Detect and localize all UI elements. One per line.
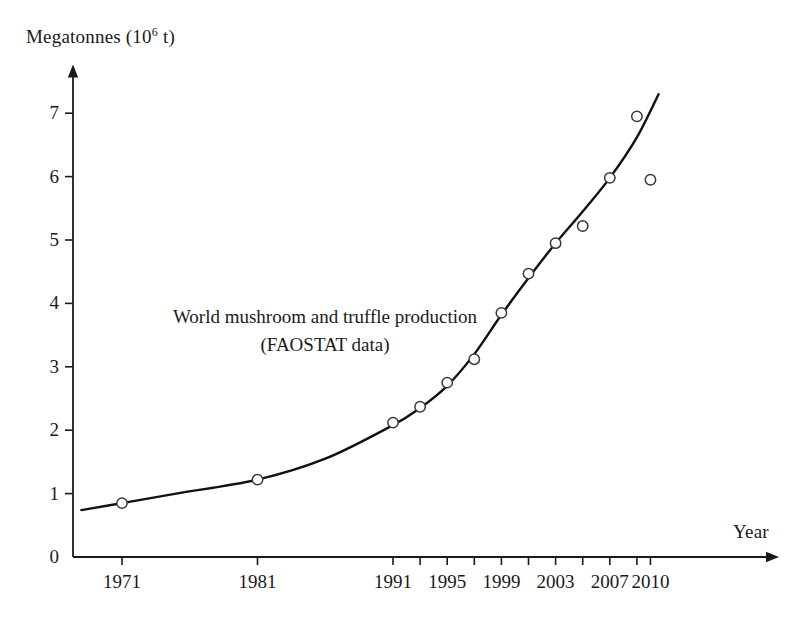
y-tick-label: 0 <box>31 546 59 568</box>
data-point-marker <box>523 268 533 278</box>
data-point-marker <box>605 173 615 183</box>
data-point-marker <box>252 474 262 484</box>
x-tick-label: 2007 <box>591 571 629 593</box>
data-point-marker <box>469 354 479 364</box>
data-point-marker <box>117 498 127 508</box>
data-markers <box>117 111 656 508</box>
y-tick-label: 2 <box>31 419 59 441</box>
x-tick-label: 1971 <box>103 571 141 593</box>
x-tick-label: 1999 <box>482 571 520 593</box>
y-tick-label: 5 <box>31 229 59 251</box>
plot-area <box>0 0 805 623</box>
axes-group <box>68 65 779 563</box>
data-point-marker <box>578 221 588 231</box>
data-point-marker <box>496 308 506 318</box>
x-tick-label: 2003 <box>537 571 575 593</box>
y-tick-label: 3 <box>31 356 59 378</box>
x-tick-label: 1981 <box>239 571 277 593</box>
y-tick-label: 7 <box>31 102 59 124</box>
y-tick-label: 1 <box>31 483 59 505</box>
y-tick-label: 4 <box>31 292 59 314</box>
data-point-marker <box>645 175 655 185</box>
x-tick-label: 2010 <box>631 571 669 593</box>
x-tick-label: 1995 <box>428 571 466 593</box>
data-point-marker <box>632 111 642 121</box>
data-point-marker <box>442 377 452 387</box>
chart-figure: Megatonnes (106 t) Year World mushroom a… <box>0 0 805 623</box>
data-point-marker <box>415 402 425 412</box>
data-point-marker <box>550 238 560 248</box>
trend-curve <box>81 94 658 510</box>
data-point-marker <box>388 417 398 427</box>
x-tick-label: 1991 <box>374 571 412 593</box>
y-tick-label: 6 <box>31 166 59 188</box>
